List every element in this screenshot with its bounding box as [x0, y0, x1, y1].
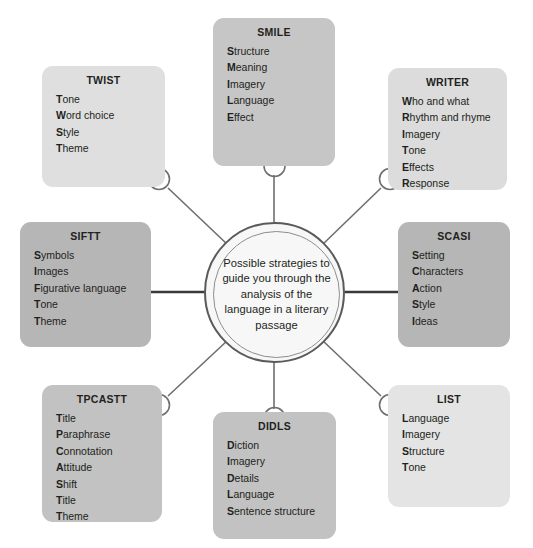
- list-item: Characters: [412, 263, 510, 279]
- list-item: Imagery: [402, 426, 510, 442]
- list-item: Setting: [412, 247, 510, 263]
- list-item: Tone: [56, 91, 165, 107]
- list-item: Theme: [56, 140, 165, 156]
- connector-line-twist: [168, 188, 228, 245]
- node-tpcastt[interactable]: TPCASTT Title Paraphrase Connotation Att…: [42, 385, 162, 522]
- connector-line-tpcastt: [168, 340, 228, 396]
- node-title: SMILE: [213, 26, 335, 38]
- list-item: Language: [227, 92, 335, 108]
- list-item: Language: [227, 486, 336, 502]
- list-item: Diction: [227, 437, 336, 453]
- node-item-list: Symbols Images Figurative language Tone …: [20, 247, 151, 329]
- node-title: DIDLS: [213, 420, 336, 432]
- list-item: Paraphrase: [56, 426, 162, 442]
- node-title: TWIST: [42, 74, 165, 86]
- connector-line-writer: [322, 188, 381, 245]
- list-item: Style: [412, 296, 510, 312]
- node-item-list: Who and what Rhythm and rhyme Imagery To…: [388, 93, 507, 191]
- node-scasi[interactable]: SCASI Setting Characters Action Style Id…: [398, 222, 510, 347]
- center-hub-text: Possible strategies to guide you through…: [218, 256, 336, 334]
- list-item: Tone: [402, 459, 510, 475]
- node-smile[interactable]: SMILE Structure Meaning Imagery Language…: [213, 18, 335, 166]
- diagram-canvas: SMILE Structure Meaning Imagery Language…: [0, 0, 533, 548]
- node-item-list: Diction Imagery Details Language Sentenc…: [213, 437, 336, 519]
- list-item: Sentence structure: [227, 503, 336, 519]
- list-item: Tone: [34, 296, 151, 312]
- list-item: Attitude: [56, 459, 162, 475]
- node-list[interactable]: LIST Language Imagery Structure Tone: [388, 385, 510, 507]
- list-item: Imagery: [227, 453, 336, 469]
- list-item: Title: [56, 492, 162, 508]
- list-item: Who and what: [402, 93, 507, 109]
- center-hub[interactable]: Possible strategies to guide you through…: [204, 222, 345, 363]
- list-item: Structure: [402, 443, 510, 459]
- list-item: Tone: [402, 142, 507, 158]
- node-siftt[interactable]: SIFTT Symbols Images Figurative language…: [20, 222, 151, 347]
- list-item: Word choice: [56, 107, 165, 123]
- list-item: Ideas: [412, 313, 510, 329]
- list-item: Figurative language: [34, 280, 151, 296]
- list-item: Theme: [56, 508, 162, 524]
- node-writer[interactable]: WRITER Who and what Rhythm and rhyme Ima…: [388, 68, 507, 190]
- list-item: Images: [34, 263, 151, 279]
- connector-loop-smile: [264, 166, 285, 177]
- node-twist[interactable]: TWIST Tone Word choice Style Theme: [42, 66, 165, 187]
- node-item-list: Language Imagery Structure Tone: [388, 410, 510, 476]
- node-item-list: Structure Meaning Imagery Language Effec…: [213, 43, 335, 125]
- center-hub-inner-ring: Possible strategies to guide you through…: [213, 231, 340, 358]
- node-didls[interactable]: DIDLS Diction Imagery Details Language S…: [213, 412, 336, 539]
- list-item: Action: [412, 280, 510, 296]
- list-item: Style: [56, 124, 165, 140]
- list-item: Structure: [227, 43, 335, 59]
- list-item: Meaning: [227, 59, 335, 75]
- list-item: Effect: [227, 109, 335, 125]
- node-title: SCASI: [398, 230, 510, 242]
- list-item: Imagery: [227, 76, 335, 92]
- list-item: Connotation: [56, 443, 162, 459]
- list-item: Imagery: [402, 126, 507, 142]
- list-item: Details: [227, 470, 336, 486]
- node-title: TPCASTT: [42, 393, 162, 405]
- list-item: Theme: [34, 313, 151, 329]
- list-item: Rhythm and rhyme: [402, 109, 507, 125]
- node-item-list: Title Paraphrase Connotation Attitude Sh…: [42, 410, 162, 525]
- connector-line-list: [322, 340, 381, 396]
- list-item: Effects: [402, 159, 507, 175]
- list-item: Shift: [56, 476, 162, 492]
- node-item-list: Tone Word choice Style Theme: [42, 91, 165, 157]
- list-item: Response: [402, 175, 507, 191]
- node-title: WRITER: [388, 76, 507, 88]
- list-item: Title: [56, 410, 162, 426]
- node-title: LIST: [388, 393, 510, 405]
- node-item-list: Setting Characters Action Style Ideas: [398, 247, 510, 329]
- list-item: Symbols: [34, 247, 151, 263]
- list-item: Language: [402, 410, 510, 426]
- node-title: SIFTT: [20, 230, 151, 242]
